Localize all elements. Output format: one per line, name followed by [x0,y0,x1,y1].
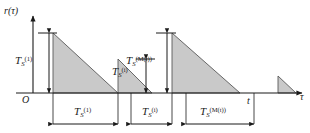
horizontal-label-2: TS(i) [142,106,158,119]
waveform-series [53,33,296,93]
vertical-label-3: TS(M(t)) [126,55,152,68]
vertical-label-1: TS(1) [15,55,32,68]
horizontal-label-2-sup: (i) [152,106,158,113]
x-axis-label: τ [300,92,304,102]
sawtooth-segment-1 [53,33,118,93]
sawtooth-segment-4 [278,76,296,93]
sawtooth-segment-3 [172,33,240,93]
figure-canvas: r(τ) τ O t TS(1) TS(i) TS(M(t)) TS(1) TS… [0,0,310,133]
time-marker-label: t [247,96,250,106]
horizontal-label-1: TS(1) [74,106,91,119]
vertical-label-2: TS(i) [112,66,128,79]
vertical-label-3-sup: (M(t)) [136,55,152,62]
y-axis-label: r(τ) [4,6,18,16]
origin-label: O [22,95,29,105]
vertical-label-1-sup: (1) [25,55,33,62]
horizontal-label-3-sup: (M(t)) [210,106,226,113]
horizontal-label-3: TS(M(t)) [200,106,226,119]
horizontal-label-1-sup: (1) [84,106,92,113]
